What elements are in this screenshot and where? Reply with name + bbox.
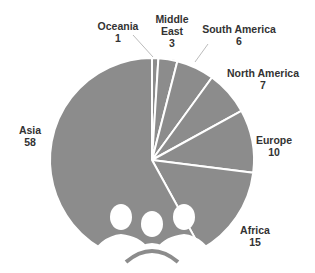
pie-slices: [50, 58, 254, 262]
label-oceania: Oceania1: [98, 20, 139, 44]
label-middle-east: MiddleEast3: [155, 13, 188, 49]
label-europe: Europe10: [256, 134, 292, 158]
label-africa: Africa15: [240, 224, 270, 248]
label-south-america: South America6: [202, 23, 276, 47]
label-north-america: North America7: [227, 67, 299, 91]
label-asia: Asia58: [19, 124, 41, 148]
